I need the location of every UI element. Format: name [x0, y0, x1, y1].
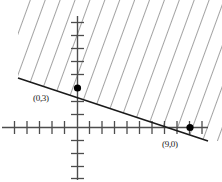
shaded-region	[0, 0, 222, 182]
x-axis	[2, 121, 208, 134]
point-label-y-intercept: (0,3)	[33, 93, 49, 103]
graph-canvas	[0, 0, 222, 182]
point-y-intercept	[74, 84, 81, 91]
point-x-intercept	[186, 124, 193, 131]
point-label-x-intercept: (9,0)	[162, 139, 178, 149]
inequality-graph-figure: (0,3) (9,0)	[0, 0, 222, 182]
